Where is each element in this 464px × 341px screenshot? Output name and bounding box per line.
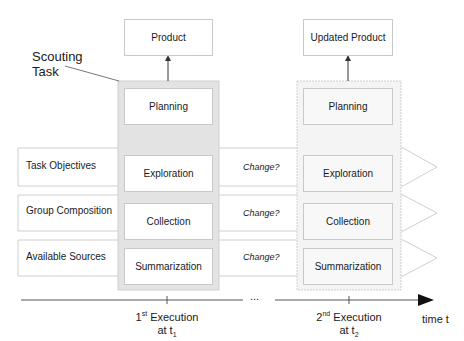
time-axis-label: time t (422, 313, 449, 325)
time-subscript: 2 (355, 331, 359, 338)
phase-collection-1: Collection (124, 203, 213, 240)
row-label-group-composition: Group Composition (26, 205, 112, 216)
change-label-1: Change? (243, 162, 280, 172)
time-subscript: 1 (173, 331, 177, 338)
phase-summarization-1: Summarization (124, 248, 213, 285)
change-label-2: Change? (243, 208, 280, 218)
phase-exploration-2: Exploration (303, 155, 393, 192)
ordinal-suffix: st (142, 310, 147, 317)
row-label-task-objectives: Task Objectives (26, 160, 96, 171)
execution2-time-label: 2nd Execution at t2 (309, 307, 389, 341)
phase-summarization-2: Summarization (303, 248, 393, 285)
phase-planning-2: Planning (303, 88, 393, 125)
title-line2: Task (32, 64, 83, 79)
at-time: at t (157, 324, 172, 336)
row-label-available-sources: Available Sources (26, 251, 106, 262)
execution-word: Execution (150, 311, 198, 323)
at-time: at t (339, 324, 354, 336)
timeline-ellipsis: ... (250, 290, 259, 302)
execution-word: Execution (333, 311, 381, 323)
ordinal-suffix: nd (322, 310, 330, 317)
updated-product-box: Updated Product (303, 19, 393, 56)
product-box: Product (124, 19, 213, 56)
phase-exploration-1: Exploration (124, 155, 213, 192)
time-arrow-icon (418, 294, 434, 306)
phase-collection-2: Collection (303, 203, 393, 240)
change-label-3: Change? (243, 252, 280, 262)
phase-planning-1: Planning (124, 88, 213, 125)
scouting-task-label: Scouting Task (32, 49, 83, 79)
title-line1: Scouting (32, 49, 83, 64)
execution1-time-label: 1st Execution at t1 (127, 307, 207, 341)
